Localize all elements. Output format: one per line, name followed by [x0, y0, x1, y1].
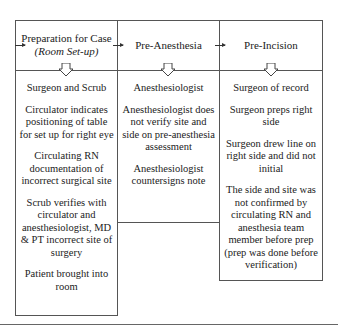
- column-preparation-items: Surgeon and Scrub Circulator indicates p…: [15, 82, 118, 302]
- down-arrow-icon: [58, 63, 74, 77]
- header-preparation-subtitle: (Room Set-up): [35, 45, 99, 58]
- list-item: Anesthesiologist countersigns note: [121, 163, 216, 188]
- bottom-rule: [0, 324, 338, 325]
- down-arrow-icon: [160, 63, 176, 77]
- right-arrow-icon: [113, 45, 123, 46]
- list-item: Patient brought into room: [19, 268, 114, 293]
- down-arrow-icon: [263, 63, 279, 77]
- list-item: Surgeon drew line on right side and did …: [223, 138, 319, 176]
- list-item: Surgeon of record: [223, 82, 319, 95]
- right-arrow-icon: [15, 45, 25, 46]
- list-item: Anesthesiologist does not verify site an…: [121, 104, 216, 154]
- list-item: The side and site was not confirmed by c…: [223, 184, 319, 272]
- list-item: Surgeon and Scrub: [19, 82, 114, 95]
- list-item: Scrub verifies with circulator and anest…: [19, 197, 114, 260]
- column-pre-incision-items: Surgeon of record Surgeon preps right si…: [219, 82, 323, 281]
- header-preparation-title: Preparation for Case: [21, 32, 111, 45]
- list-item: Surgeon preps right side: [223, 104, 319, 129]
- right-arrow-icon: [215, 45, 225, 46]
- header-pre-anesthesia-title: Pre-Anesthesia: [135, 39, 202, 52]
- header-pre-incision-title: Pre-Incision: [244, 39, 298, 52]
- column-pre-anesthesia-items: Anesthesiologist Anesthesiologist does n…: [117, 82, 220, 197]
- list-item: Anesthesiologist: [121, 82, 216, 95]
- list-item: Circulating RN documentation of incorrec…: [19, 150, 114, 188]
- list-item: Circulator indicates positioning of tabl…: [19, 104, 114, 142]
